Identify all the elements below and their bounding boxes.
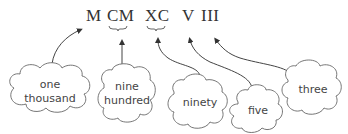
label-line: thousand: [14, 92, 86, 106]
cloud-label-one-thousand: one thousand: [14, 78, 86, 106]
arrow-ninety: [158, 40, 200, 76]
cloud-label-five: five: [236, 104, 280, 118]
label-line: one: [14, 78, 86, 92]
cloud-label-ninety: ninety: [174, 96, 226, 110]
label-line: nine: [100, 80, 154, 94]
cloud-label-nine-hundred: nine hundred: [100, 80, 154, 108]
diagram-graphics: [0, 0, 348, 134]
numeral-m: M: [86, 6, 102, 26]
numeral-cm: CM: [107, 6, 134, 26]
brace-xc: [147, 26, 165, 31]
arrow-one-thousand: [52, 30, 80, 64]
numeral-xc: XC: [145, 6, 170, 26]
cloud-label-three: three: [288, 83, 338, 97]
label-line: hundred: [100, 94, 154, 108]
roman-numeral-diagram: M CM XC V III one thousand nine hundred …: [0, 0, 348, 134]
numeral-v: V: [182, 6, 195, 26]
brace-cm: [109, 26, 127, 31]
numeral-iii: III: [201, 6, 219, 26]
